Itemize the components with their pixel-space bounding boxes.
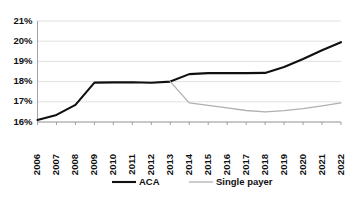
x-axis-tick-labels: 2006200720082009201020112012201320142015… (31, 153, 346, 175)
data-series (38, 42, 342, 120)
x-axis-tick-label: 2013 (164, 154, 175, 175)
x-axis-tick-label: 2008 (69, 154, 80, 175)
x-axis-tick-label: 2021 (316, 153, 327, 175)
x-axis-tick-label: 2012 (145, 154, 156, 175)
x-axis-tick-label: 2022 (335, 154, 346, 175)
y-axis-tick-label: 18% (13, 75, 33, 86)
x-axis-tick-label: 2015 (202, 153, 213, 175)
gridlines (38, 21, 342, 122)
x-axis-tick-label: 2016 (221, 154, 232, 175)
x-axis-tickmarks (38, 122, 342, 125)
y-axis-tick-label: 16% (13, 116, 33, 127)
y-axis-tick-label: 20% (13, 35, 33, 46)
line-chart: 16%17%18%19%20%21% 200620072008200920102… (0, 0, 364, 200)
chart-legend: ACASingle payer (112, 176, 273, 187)
y-axis-tick-label: 17% (13, 95, 33, 106)
x-axis-tick-label: 2019 (278, 154, 289, 175)
y-axis-tick-labels: 16%17%18%19%20%21% (13, 15, 33, 127)
x-axis-tick-label: 2010 (107, 154, 118, 175)
legend-label-aca: ACA (139, 176, 160, 187)
x-axis-tick-label: 2014 (183, 153, 194, 175)
x-axis-tick-label: 2006 (31, 154, 42, 175)
legend-label-single-payer: Single payer (216, 176, 273, 187)
x-axis-tick-label: 2017 (240, 154, 251, 175)
x-axis-tick-label: 2009 (88, 154, 99, 175)
y-axis-tick-label: 21% (13, 15, 33, 26)
y-axis-tick-label: 19% (13, 55, 33, 66)
x-axis-tick-label: 2007 (50, 154, 61, 175)
series-line-aca (38, 42, 342, 120)
x-axis-tick-label: 2018 (259, 154, 270, 175)
x-axis-tick-label: 2020 (297, 154, 308, 175)
series-line-single-payer (170, 82, 341, 112)
chart-canvas: 16%17%18%19%20%21% 200620072008200920102… (0, 0, 364, 200)
x-axis-tick-label: 2011 (126, 153, 137, 174)
